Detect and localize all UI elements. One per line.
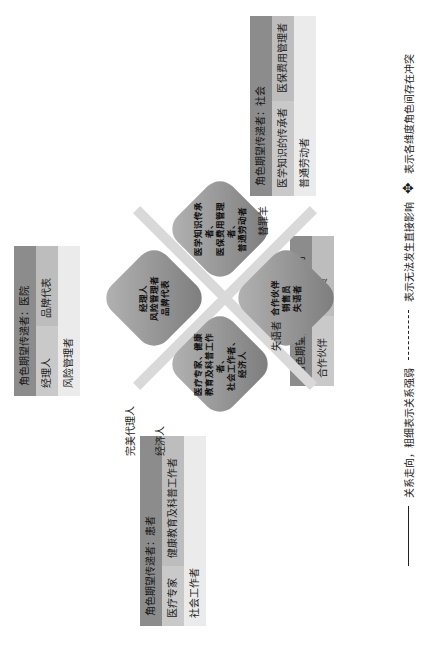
role-box-patient: 角色期望传递者：患者 医疗专家 健康教育及科普工作者 社会工作者 [140, 436, 206, 626]
role-item: 经理人 [36, 326, 58, 396]
arrow-label-perfect-agent: 完美代理人 [122, 406, 137, 456]
role-box-society: 角色期望传递者：社会 医学知识的传承者 医保费用管理者 普通劳动者 [250, 16, 316, 196]
legend-dashed: 表示无法发生直接影响 [401, 202, 416, 302]
role-box-title: 角色期望传递者：社会 [250, 16, 272, 196]
legend-conflict: 表示各维度角色间存在冲突 [401, 54, 416, 174]
role-box-title: 角色期望传递者：医院 [14, 246, 36, 396]
center-conflict: 经理人 风险管理者 品牌代表 医学知识传承者、 医保费用管理者、 普通劳动者 合… [120, 198, 320, 398]
role-item: 医保费用管理者 [272, 16, 294, 101]
four-way-arrow-icon: ✥ [400, 182, 416, 194]
dashed-arrow-icon [408, 310, 409, 360]
arrow-label-economic: 经济人 [152, 426, 167, 456]
diagram-canvas: 角色期望传递者：医院 经理人 品牌代表 风险管理者 角色期望传递者：社会 医学知… [0, 0, 433, 656]
role-item: 品牌代表 [36, 246, 58, 326]
legend: 关系走向，粗细表示关系强弱 表示无法发生直接影响 ✥ 表示各维度角色间存在冲突 [400, 54, 416, 566]
legend-solid: 关系走向，粗细表示关系强弱 [401, 368, 416, 498]
role-item: 普通劳动者 [294, 16, 316, 196]
role-item: 社会工作者 [184, 436, 206, 626]
solid-arrow-icon [408, 506, 409, 566]
petal-text: 经理人 风险管理者 品牌代表 [138, 263, 171, 333]
arrow-label-scapegoat: 替罪羊 [255, 206, 270, 236]
role-box-title: 角色期望传递者：患者 [140, 436, 162, 626]
role-item: 风险管理者 [58, 246, 80, 396]
arrow-label-silent: 失语者 [268, 321, 283, 351]
role-item: 医学知识的传承者 [272, 101, 294, 196]
petal-text: 医学知识传承者、 医保费用管理者、 普通劳动者 [193, 194, 248, 264]
petal-text: 医疗专家、健康 教育及科普工作者、 社会工作者、 经济人 [193, 329, 248, 399]
role-item: 医疗专家 [162, 566, 184, 626]
role-box-hospital: 角色期望传递者：医院 经理人 品牌代表 风险管理者 [14, 246, 80, 396]
